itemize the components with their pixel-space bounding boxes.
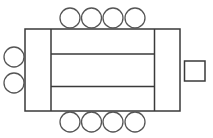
chair-top-2: [82, 8, 102, 28]
chair-top-4: [125, 8, 145, 28]
table-outer-rect: [25, 29, 180, 111]
bottom-chairs: [60, 112, 145, 132]
chair-bottom-3: [103, 112, 123, 132]
top-chairs: [60, 8, 145, 28]
chair-bottom-4: [125, 112, 145, 132]
chair-bottom-1: [60, 112, 80, 132]
left-chairs: [4, 47, 24, 93]
chair-bottom-2: [82, 112, 102, 132]
chair-left-1: [4, 47, 24, 67]
chair-top-3: [103, 8, 123, 28]
chair-top-1: [60, 8, 80, 28]
side-square: [185, 61, 206, 81]
table: [25, 29, 180, 111]
seating-diagram: [0, 0, 213, 138]
chair-left-2: [4, 73, 24, 93]
